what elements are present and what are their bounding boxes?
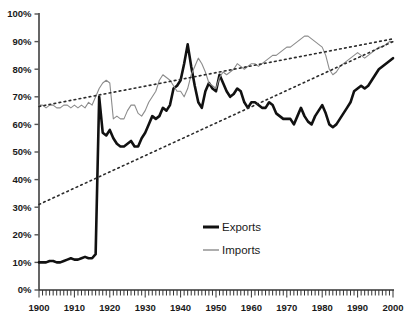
y-axis-tick-label: 100% <box>7 8 32 19</box>
x-axis-tick-label: 1950 <box>205 302 226 313</box>
x-axis-tick-label: 1960 <box>241 302 262 313</box>
series-line-exports <box>39 44 393 262</box>
chart-container: 0%10%20%30%40%50%60%70%80%90%100%1900191… <box>0 0 408 327</box>
series-line-exports-trend <box>39 42 393 205</box>
x-axis-tick-label: 1920 <box>99 302 120 313</box>
y-axis-tick-label: 80% <box>12 64 32 75</box>
legend-label: Exports <box>222 221 261 233</box>
legend-label: Imports <box>222 244 261 256</box>
y-axis-tick-label: 50% <box>12 146 32 157</box>
x-axis-tick-label: 1980 <box>312 302 333 313</box>
y-axis-tick-label: 60% <box>12 119 32 130</box>
y-axis-tick-label: 70% <box>12 91 32 102</box>
y-axis-tick-label: 90% <box>12 36 32 47</box>
line-chart: 0%10%20%30%40%50%60%70%80%90%100%1900191… <box>0 0 408 327</box>
x-axis-tick-label: 1970 <box>276 302 297 313</box>
x-axis-tick-label: 2000 <box>382 302 403 313</box>
y-axis-tick-label: 0% <box>18 284 32 295</box>
x-axis-tick-label: 1910 <box>64 302 85 313</box>
legend-item: Exports <box>203 221 261 233</box>
y-axis-tick-label: 30% <box>12 202 32 213</box>
x-axis-tick-label: 1990 <box>347 302 368 313</box>
legend-item: Imports <box>203 244 261 256</box>
x-axis-tick-label: 1900 <box>28 302 49 313</box>
x-axis-tick-label: 1940 <box>170 302 191 313</box>
x-axis-tick-label: 1930 <box>135 302 156 313</box>
y-axis-tick-label: 10% <box>12 257 32 268</box>
series-line-imports-trend <box>39 39 393 107</box>
y-axis-tick-label: 20% <box>12 229 32 240</box>
y-axis-tick-label: 40% <box>12 174 32 185</box>
